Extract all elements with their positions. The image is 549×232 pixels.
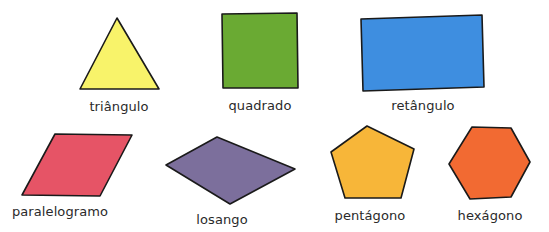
parallelogram-label: paralelogramo <box>12 204 108 219</box>
pentagon-label: pentágono <box>335 208 406 223</box>
hexagon-label: hexágono <box>458 208 523 223</box>
triangle-label: triângulo <box>89 99 148 114</box>
hexagon-shape <box>449 127 530 199</box>
parallelogram-shape <box>22 134 132 196</box>
square-label: quadrado <box>228 98 291 113</box>
rectangle-label: retângulo <box>391 98 454 113</box>
rhombus-label: losango <box>196 212 247 227</box>
pentagon-shape <box>331 126 414 198</box>
triangle-shape <box>80 18 159 89</box>
shapes-canvas <box>0 0 549 232</box>
rectangle-shape <box>361 15 484 91</box>
rhombus-shape <box>166 137 295 204</box>
square-shape <box>222 13 298 88</box>
